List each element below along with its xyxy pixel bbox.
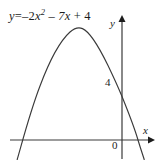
y-intercept-tick-label: 4 — [105, 77, 111, 88]
equation-term1-exponent: 2 — [41, 7, 45, 17]
equation-term1-coef: –2 — [22, 9, 35, 23]
equation-term3: 4 — [84, 9, 90, 23]
equation-label: y=–2x2 – 7x + 4 — [9, 8, 91, 23]
y-axis-label: y — [110, 18, 115, 29]
equation-term3-operator: + — [74, 9, 81, 23]
parabola-figure: y=–2x2 – 7x + 4 y x 4 0 — [0, 0, 160, 160]
graph-canvas — [0, 0, 160, 160]
x-axis-label: x — [143, 125, 148, 136]
x-axis-arrowhead-icon — [148, 137, 155, 144]
origin-label: 0 — [112, 140, 118, 151]
equation-term2: 7x — [58, 9, 70, 23]
equation-equals: = — [15, 9, 22, 23]
y-axis-arrowhead-icon — [119, 15, 126, 22]
equation-term2-operator: – — [48, 9, 54, 23]
